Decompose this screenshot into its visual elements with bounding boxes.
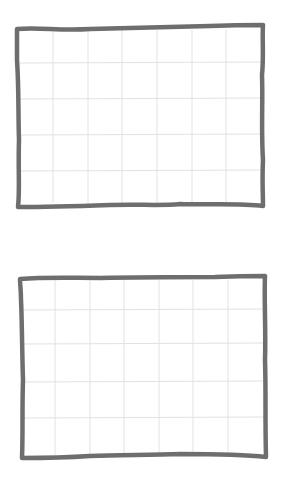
grid-lines-top	[20, 30, 262, 203]
grid-frame-top	[0, 0, 297, 240]
grid-frame-bottom	[0, 240, 297, 477]
top-grid-panel	[0, 0, 297, 240]
grid-lines-bottom	[22, 280, 264, 455]
bottom-grid-panel	[0, 240, 297, 477]
